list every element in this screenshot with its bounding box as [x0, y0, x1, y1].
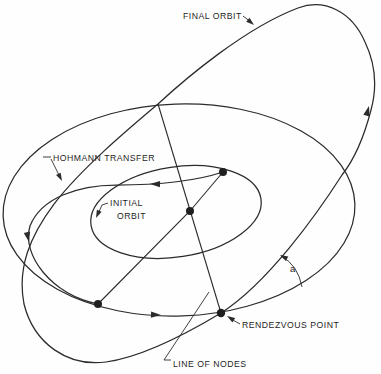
line-of-nodes-label: LINE OF NODES — [173, 359, 247, 369]
central-body-dot — [186, 207, 194, 215]
hohmann-left-direction-arrow — [24, 232, 32, 243]
rendezvous-point-dot — [217, 309, 225, 317]
initial-orbit-label-line2: ORBIT — [117, 211, 146, 221]
coplanar-final-radius-orbit-path — [0, 98, 359, 322]
transfer-injection-dot — [219, 168, 227, 176]
plane-change-angle-label: a — [290, 263, 296, 274]
hohmann-transfer-path — [28, 172, 223, 304]
orbit-rendezvous-figure: FINAL ORBIT HOHMANN TRANSFER INITIAL ORB… — [0, 0, 381, 374]
hohmann-direction-arrow — [150, 181, 160, 188]
transfer-apogee-dot — [94, 300, 102, 308]
rendezvous-point-label: RENDEZVOUS POINT — [242, 320, 339, 330]
final-orbit-label: FINAL ORBIT — [183, 11, 242, 21]
final-orbit-path — [22, 5, 375, 363]
hohmann-transfer-leader-arrow — [56, 173, 64, 182]
orbit-diagram-canvas: FINAL ORBIT HOHMANN TRANSFER INITIAL ORB… — [0, 0, 381, 374]
initial-orbit-label-line1: INITIAL — [110, 198, 143, 208]
initial-orbit-leader-arrow — [94, 210, 102, 219]
rendezvous-point-leader-arrow — [226, 314, 236, 323]
hohmann-transfer-label: HOHMANN TRANSFER — [53, 153, 155, 163]
line-of-apsides-line — [98, 172, 223, 304]
coplanar-orbit-direction-arrow — [151, 311, 161, 318]
line-of-nodes-leader — [164, 292, 209, 360]
initial-orbit-path — [84, 154, 268, 270]
